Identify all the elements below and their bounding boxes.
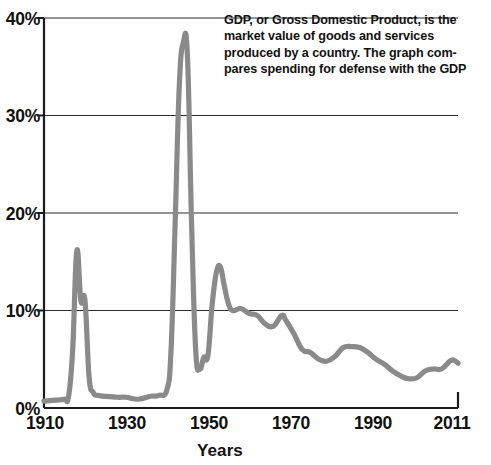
x-tick-label-1950: 1950 xyxy=(169,415,249,433)
x-tick-label-1990: 1990 xyxy=(333,415,413,433)
defense-spending-line xyxy=(44,33,458,401)
x-tick-label-1930: 1930 xyxy=(87,415,167,433)
x-tick-label-2011: 2011 xyxy=(412,415,491,433)
x-tick-label-1970: 1970 xyxy=(251,415,331,433)
x-axis-title: Years xyxy=(0,441,440,461)
annotation-line-2: market value of goods and services xyxy=(224,28,491,44)
annotation-line-1: GDP, or Gross Domestic Product, is the xyxy=(224,12,491,28)
annotation-line-4: pares spending for defense with the GDP xyxy=(224,61,491,77)
gdp-defense-spending-chart: 40% 30% 20% 10% 0% 1910 1930 1950 1970 1… xyxy=(0,0,491,465)
annotation-line-3: produced by a country. The graph com- xyxy=(224,45,491,61)
x-tick-label-1910: 1910 xyxy=(5,415,85,433)
annotation-text: GDP, or Gross Domestic Product, is the m… xyxy=(224,12,491,78)
